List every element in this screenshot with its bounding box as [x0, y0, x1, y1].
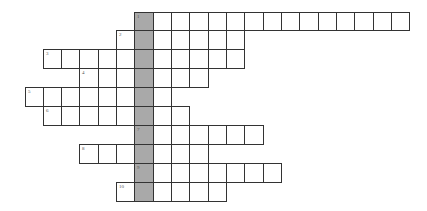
crossword-cell[interactable]: [208, 30, 227, 50]
crossword-cell[interactable]: [208, 182, 227, 202]
crossword-cell[interactable]: [208, 12, 227, 31]
crossword-cell[interactable]: [189, 182, 209, 202]
crossword-cell[interactable]: 7: [134, 125, 154, 145]
clue-number: 7: [137, 126, 140, 133]
crossword-cell[interactable]: [116, 144, 135, 164]
crossword-cell[interactable]: [171, 12, 190, 31]
crossword-cell[interactable]: 2: [116, 30, 135, 50]
crossword-cell[interactable]: [171, 49, 190, 69]
crossword-cell[interactable]: [226, 30, 245, 50]
crossword-cell[interactable]: [134, 106, 154, 126]
crossword-cell[interactable]: [134, 182, 154, 202]
crossword-cell[interactable]: [244, 12, 264, 31]
crossword-cell[interactable]: [263, 12, 282, 31]
crossword-cell[interactable]: [116, 87, 135, 107]
crossword-cell[interactable]: [153, 49, 172, 69]
crossword-cell[interactable]: [318, 12, 337, 31]
crossword-cell[interactable]: [299, 12, 319, 31]
clue-number: 4: [82, 69, 85, 76]
clue-number: 1: [137, 13, 140, 20]
crossword-cell[interactable]: [153, 87, 172, 107]
crossword-cell[interactable]: [98, 144, 117, 164]
crossword-cell[interactable]: [153, 12, 172, 31]
crossword-cell[interactable]: [98, 106, 117, 126]
crossword-cell[interactable]: [373, 12, 392, 31]
clue-number: 10: [119, 183, 124, 190]
crossword-cell[interactable]: [263, 163, 282, 183]
crossword-cell[interactable]: [208, 49, 227, 69]
crossword-cell[interactable]: [354, 12, 374, 31]
crossword-cell[interactable]: [189, 125, 209, 145]
crossword-cell[interactable]: [134, 30, 154, 50]
crossword-cell[interactable]: 6: [43, 106, 62, 126]
crossword-cell[interactable]: [98, 87, 117, 107]
crossword-cell[interactable]: [116, 49, 135, 69]
crossword-cell[interactable]: [43, 87, 62, 107]
crossword-cell[interactable]: [244, 125, 264, 145]
crossword-cell[interactable]: 9: [134, 163, 154, 183]
clue-number: 9: [137, 164, 140, 171]
crossword-cell[interactable]: [391, 12, 410, 31]
crossword-cell[interactable]: [61, 106, 80, 126]
crossword-cell[interactable]: [61, 87, 80, 107]
crossword-cell[interactable]: [171, 163, 190, 183]
clue-number: 8: [82, 145, 85, 152]
clue-number: 6: [46, 107, 49, 114]
crossword-cell[interactable]: [134, 87, 154, 107]
crossword-cell[interactable]: [208, 125, 227, 145]
crossword-cell[interactable]: 4: [79, 68, 99, 88]
crossword-cell[interactable]: [171, 68, 190, 88]
crossword-cell[interactable]: [116, 68, 135, 88]
crossword-cell[interactable]: [189, 144, 209, 164]
crossword-cell[interactable]: [98, 49, 117, 69]
crossword-cell[interactable]: [336, 12, 355, 31]
crossword-cell[interactable]: [79, 87, 99, 107]
crossword-cell[interactable]: [226, 12, 245, 31]
crossword-cell[interactable]: [153, 163, 172, 183]
crossword-cell[interactable]: [153, 182, 172, 202]
crossword-cell[interactable]: [153, 30, 172, 50]
crossword-cell[interactable]: [189, 30, 209, 50]
crossword-cell[interactable]: 1: [134, 12, 154, 31]
crossword-cell[interactable]: [189, 163, 209, 183]
clue-number: 2: [119, 31, 122, 38]
crossword-cell[interactable]: [98, 68, 117, 88]
crossword-cell[interactable]: 8: [79, 144, 99, 164]
crossword-cell[interactable]: [171, 144, 190, 164]
clue-number: 5: [28, 88, 31, 95]
crossword-cell[interactable]: [281, 12, 300, 31]
crossword-cell[interactable]: [153, 68, 172, 88]
crossword-cell[interactable]: 10: [116, 182, 135, 202]
crossword-cell[interactable]: [171, 106, 190, 126]
crossword-grid: 12345678910: [0, 0, 427, 211]
crossword-cell[interactable]: [226, 49, 245, 69]
crossword-cell[interactable]: 5: [25, 87, 44, 107]
crossword-cell[interactable]: [134, 68, 154, 88]
crossword-cell[interactable]: [116, 106, 135, 126]
crossword-cell[interactable]: [153, 144, 172, 164]
crossword-cell[interactable]: [79, 106, 99, 126]
crossword-cell[interactable]: [189, 49, 209, 69]
clue-number: 3: [46, 50, 49, 57]
crossword-cell[interactable]: [134, 49, 154, 69]
crossword-cell[interactable]: [153, 106, 172, 126]
crossword-cell[interactable]: [189, 12, 209, 31]
crossword-cell[interactable]: [79, 49, 99, 69]
crossword-cell[interactable]: [134, 144, 154, 164]
crossword-cell[interactable]: [244, 163, 264, 183]
crossword-cell[interactable]: [61, 49, 80, 69]
crossword-cell[interactable]: 3: [43, 49, 62, 69]
crossword-cell[interactable]: [226, 163, 245, 183]
crossword-cell[interactable]: [153, 125, 172, 145]
crossword-cell[interactable]: [208, 163, 227, 183]
crossword-cell[interactable]: [189, 68, 209, 88]
crossword-cell[interactable]: [171, 125, 190, 145]
crossword-cell[interactable]: [226, 125, 245, 145]
crossword-cell[interactable]: [171, 182, 190, 202]
crossword-cell[interactable]: [171, 30, 190, 50]
